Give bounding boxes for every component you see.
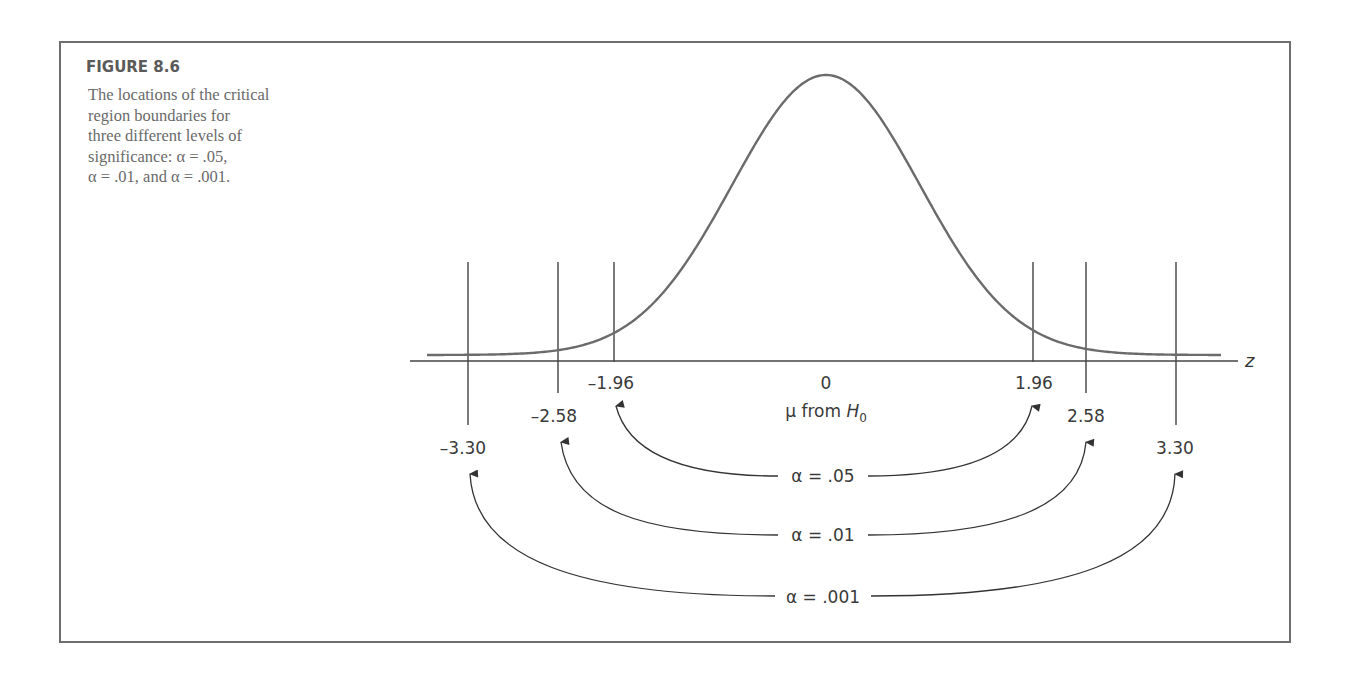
alpha-05-arrow-right — [868, 406, 1032, 476]
alpha-001-arrow-right — [871, 474, 1175, 596]
tick-label-pos-3-30: 3.30 — [1156, 438, 1194, 458]
tick-label-pos-2-58: 2.58 — [1067, 406, 1105, 426]
alpha-01-arrow-right — [868, 442, 1086, 535]
tick-label-neg-3-30: –3.30 — [440, 438, 486, 458]
alpha-05-arrow-left — [616, 406, 778, 476]
tick-label-pos-1-96: 1.96 — [1015, 373, 1053, 393]
alpha-001-label: α = .001 — [786, 587, 860, 607]
alpha-01-label: α = .01 — [791, 525, 854, 545]
normal-curve — [427, 75, 1221, 355]
normal-distribution-chart: z –1.96 0 1.96 –2.58 2.58 –3.30 3.30 μ f… — [0, 0, 1352, 680]
tick-label-neg-2-58: –2.58 — [531, 406, 577, 426]
x-axis-label: z — [1244, 350, 1255, 371]
tick-label-zero: 0 — [821, 373, 832, 393]
mean-label: μ from H0 — [785, 401, 867, 425]
alpha-001-arrow-left — [470, 474, 775, 596]
tick-label-neg-1-96: –1.96 — [588, 373, 634, 393]
alpha-05-label: α = .05 — [791, 466, 854, 486]
alpha-01-arrow-left — [561, 442, 778, 535]
